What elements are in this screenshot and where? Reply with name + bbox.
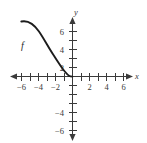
y-axis-arrow-up [69, 17, 75, 24]
x-axis-arrow-right [126, 73, 133, 79]
ytick-label-neg6: −6 [55, 126, 64, 136]
y-axis-label: y [73, 7, 78, 17]
x-axis-arrow-left [10, 73, 17, 79]
ytick-label-4: 4 [60, 45, 65, 55]
xtick-label-2: 2 [87, 82, 91, 92]
xtick-label-4: 4 [104, 82, 109, 92]
xtick-label-neg4: −4 [34, 82, 44, 92]
ytick-label-6: 6 [60, 27, 64, 37]
xtick-label-6: 6 [121, 82, 125, 92]
ytick-label-neg4: −4 [55, 108, 65, 118]
xtick-label-neg2: −2 [51, 82, 60, 92]
x-axis-label: x [134, 71, 139, 81]
coordinate-plane: −6 −4 −2 2 4 6 6 4 2 −4 −6 x y f [0, 0, 147, 143]
y-axis-arrow-down [69, 134, 75, 141]
xtick-label-neg6: −6 [17, 82, 26, 92]
curve-label-f: f [21, 40, 25, 51]
function-curve [21, 21, 72, 76]
graph-figure: −6 −4 −2 2 4 6 6 4 2 −4 −6 x y f [0, 0, 147, 143]
